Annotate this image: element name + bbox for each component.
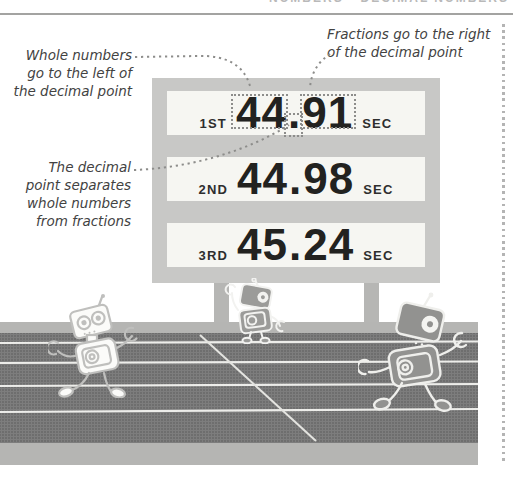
- time-whole: 45: [237, 223, 288, 267]
- annotation-line: from fractions: [16, 212, 131, 230]
- unit-label: SEC: [362, 116, 392, 131]
- time-point: .: [289, 223, 302, 267]
- time-whole: 44: [236, 88, 287, 137]
- annotation-line: Whole numbers: [0, 46, 132, 64]
- annotation-line: The decimal: [16, 158, 131, 176]
- track-edge-bottom: [0, 443, 478, 465]
- annotation-line: Fractions go to the right: [327, 25, 503, 43]
- robot-runner-left-icon: [48, 292, 138, 398]
- time-fraction: 24: [303, 223, 354, 267]
- time-point: .: [289, 157, 302, 201]
- time-value: 44 . 98: [237, 157, 354, 201]
- annotation-whole-numbers: Whole numbers go to the left of the deci…: [0, 46, 132, 100]
- annotation-line: whole numbers: [16, 194, 131, 212]
- finish-line: [200, 335, 316, 441]
- time-whole: 44: [237, 157, 288, 201]
- time-value: 45 . 24: [237, 223, 354, 267]
- annotation-line: go to the left of: [0, 64, 132, 82]
- scoreboard-row-3rd: 3RD 45 . 24 SEC: [167, 223, 425, 267]
- annotation-line: point separates: [16, 176, 131, 194]
- annotation-fractions: Fractions go to the right of the decimal…: [327, 25, 503, 61]
- scoreboard: 1ST 44 . 91 SEC 2ND 44 . 98 SEC 3RD 45 .…: [152, 78, 440, 324]
- scoreboard-row-2nd: 2ND 44 . 98 SEC: [167, 157, 425, 201]
- robot-runner-middle-icon: [224, 278, 288, 344]
- time-fraction: 91: [302, 88, 353, 137]
- robot-runner-right-icon: [358, 291, 470, 413]
- unit-label: SEC: [363, 182, 393, 197]
- time-point: .: [288, 88, 301, 137]
- position-label: 2ND: [198, 182, 228, 197]
- annotation-line: the decimal point: [0, 82, 132, 100]
- position-label: 3RD: [198, 248, 228, 263]
- annotation-decimal-separator: The decimal point separates whole number…: [16, 158, 131, 230]
- unit-label: SEC: [363, 248, 393, 263]
- annotation-line: of the decimal point: [327, 43, 503, 61]
- running-header: NUMBERS • DECIMAL NUMBERS: [269, 0, 509, 5]
- scoreboard-row-1st: 1ST 44 . 91 SEC: [167, 91, 425, 135]
- position-label: 1ST: [200, 116, 227, 131]
- page-edge-dotted-border: [502, 24, 505, 464]
- time-value: 44 . 91: [236, 91, 353, 135]
- time-fraction: 98: [303, 157, 354, 201]
- book-page: NUMBERS • DECIMAL NUMBERS Whole numbers …: [0, 0, 513, 480]
- header-rule: [0, 13, 513, 15]
